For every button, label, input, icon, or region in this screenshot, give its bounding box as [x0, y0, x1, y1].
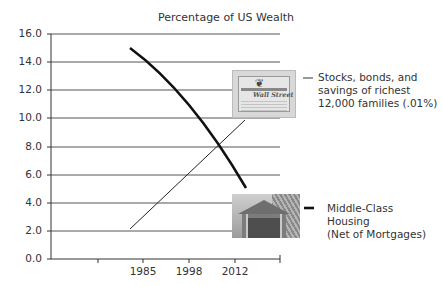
certificate-caption: Wall Street: [253, 91, 294, 99]
y-tick-label: 8.0: [4, 140, 42, 152]
legend-line: savings of richest: [318, 84, 437, 97]
y-tick-label: 12.0: [4, 83, 42, 95]
chart: Percentage of US Wealth 16.0 14.0 12.0 1…: [0, 0, 442, 287]
y-tick-label: 0.0: [4, 252, 42, 264]
y-tick-label: 2.0: [4, 224, 42, 236]
legend-line: Middle-Class: [327, 202, 426, 215]
chart-title: Percentage of US Wealth: [158, 11, 294, 24]
plot-area: [0, 0, 442, 287]
y-tick-label: 16.0: [4, 27, 42, 39]
house-image: [232, 194, 300, 238]
stock-certificate-image: ❦ Wall Street: [232, 70, 296, 118]
x-tick-label: 1998: [169, 265, 209, 277]
legend-line: Stocks, bonds, and: [318, 71, 437, 84]
legend-line: (Net of Mortgages): [327, 228, 426, 241]
legend-line: 12,000 families (.01%): [318, 97, 437, 110]
y-tick-label: 14.0: [4, 55, 42, 67]
housing-legend-label: Middle-Class Housing (Net of Mortgages): [327, 202, 426, 241]
y-tick-label: 10.0: [4, 111, 42, 123]
legend-line: Housing: [327, 215, 426, 228]
y-tick-label: 4.0: [4, 196, 42, 208]
x-tick-label: 2012: [215, 265, 255, 277]
x-tick-label: 1985: [123, 265, 163, 277]
stocks-legend-label: Stocks, bonds, and savings of richest 12…: [318, 71, 437, 110]
y-tick-label: 6.0: [4, 168, 42, 180]
